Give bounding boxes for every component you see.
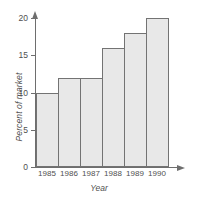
x-axis-arrow-icon xyxy=(177,165,185,171)
bar-1986 xyxy=(58,78,81,167)
y-tick-label-5: 5 xyxy=(0,125,28,135)
x-tick-label-1990: 1990 xyxy=(142,169,172,178)
bar-1988 xyxy=(102,48,125,167)
y-tick-label-10: 10 xyxy=(0,88,28,98)
y-tick-label-0: 0 xyxy=(0,162,28,172)
bar-chart-figure: Percent of market 0 5 10 15 20 1985 1986… xyxy=(0,0,201,202)
y-tick-label-15: 15 xyxy=(0,50,28,60)
y-tick-mark-0 xyxy=(31,167,36,168)
y-tick-label-20: 20 xyxy=(0,13,28,23)
bar-1985 xyxy=(36,93,59,168)
bar-1987 xyxy=(80,78,103,167)
plot-area xyxy=(36,18,178,167)
bar-1990 xyxy=(146,18,169,167)
x-axis-title: Year xyxy=(34,183,164,193)
bar-1989 xyxy=(124,33,147,167)
x-axis-line xyxy=(35,167,178,168)
